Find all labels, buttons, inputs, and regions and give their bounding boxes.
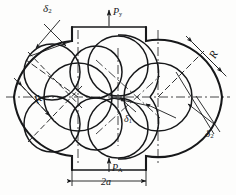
delta1-leader [112, 98, 176, 118]
label-width-2a: 2a [101, 177, 111, 187]
label-delta1: δ1 [124, 114, 132, 124]
inner-clearance-leader [146, 104, 176, 118]
label-delta2-bottom-right: δ2 [205, 128, 214, 140]
radius-right-extension [158, 51, 204, 97]
right-radius-dimension [158, 36, 228, 97]
diagonal-construction-a [96, 60, 160, 118]
lobe-arc-lower-left [24, 96, 80, 152]
label-delta2-top-left: δ2 [43, 3, 52, 15]
figure-canvas: δ2 Py R R δ1 δ2 PA 2a [0, 0, 236, 195]
delta2-br-leader-a [188, 104, 214, 124]
label-pressure-bottom: PA [112, 163, 123, 173]
delta2-br-tangent [176, 72, 214, 134]
lobe-arc-upper-left [24, 44, 80, 100]
delta2-top-left-leader [30, 20, 72, 56]
label-pressure-top: Py [113, 7, 122, 17]
